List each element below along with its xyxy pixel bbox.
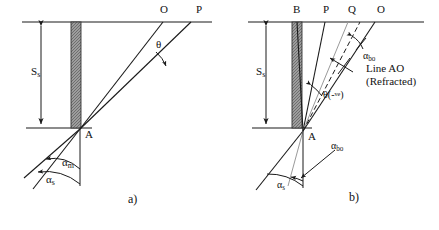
panel-b-surface-point-b-label: B [293, 4, 300, 16]
panel-b-theta-negative-arc [311, 85, 322, 96]
panel-b-alpha-s-subscript: s [282, 184, 285, 192]
panel-b-depth-label-subscript: s [262, 70, 265, 79]
panel-a-line-ap [80, 22, 191, 129]
panel-a-depth-label: Ss [31, 66, 40, 80]
panel-a-ray-alpha-m-below [24, 129, 80, 178]
panel-b-point-a-label: A [308, 131, 316, 143]
panel-b-theta-negative-label: θ(-ve) [323, 90, 344, 101]
panel-b-graphics [248, 22, 424, 190]
panel-a-theta-label: θ [156, 39, 161, 51]
panel-a-alpha-s-angle-arc [38, 172, 80, 184]
panel-a-hatched-wall [71, 22, 81, 128]
panel-a-line-ao [80, 22, 163, 129]
panel-b-refracted-annotation-line1: Line AO [366, 63, 404, 75]
panel-b-alpha-bo-lower-subscript: bo [336, 145, 343, 153]
panel-a-alpha-s-subscript: s [52, 178, 55, 187]
panel-a-alpha-m-label: αm [62, 157, 74, 171]
panel-b-hatched-wall [292, 22, 302, 128]
panel-b-depth-label: Ss [256, 66, 265, 80]
panel-b-line-ao-refracted-dashed [303, 22, 360, 131]
panel-a-depth-label-subscript: s [37, 70, 40, 79]
figure-diagram-container: O P Ss A θ αm αs a) B P Q O Ss A θ(-ve) … [0, 0, 439, 230]
panel-b-refracted-leader-cross [338, 58, 350, 74]
panel-a-alpha-s-label: αs [46, 174, 55, 188]
panel-b-line-aq [303, 22, 348, 131]
diagram-vector-canvas [0, 0, 439, 230]
panel-b-surface-point-p-label: P [323, 4, 329, 16]
panel-a-caption: a) [128, 193, 137, 206]
panel-b-refracted-annotation-line2: (Refracted) [366, 76, 416, 88]
panel-b-alpha-bo-lower-leader [301, 150, 335, 178]
panel-b-theta-paren-close: ) [340, 89, 343, 100]
panel-a-graphics [22, 22, 212, 189]
panel-b-alpha-s-label: αs [277, 180, 285, 193]
panel-b-surface-point-q-label: Q [348, 4, 356, 16]
panel-b-surface-point-o-label: O [377, 4, 385, 16]
panel-a-surface-point-o-label: O [160, 4, 168, 16]
panel-a-alpha-m-subscript: m [68, 161, 74, 170]
panel-b-caption: b) [349, 191, 359, 204]
panel-b-alpha-bo-lower-label: αbo [331, 141, 343, 154]
panel-a-point-a-label: A [85, 129, 93, 141]
panel-a-surface-point-p-label: P [196, 4, 202, 16]
